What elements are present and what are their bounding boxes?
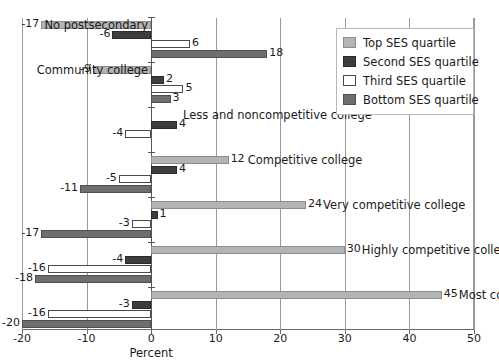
bar-row	[132, 301, 151, 309]
bar-value-label: 18	[267, 49, 283, 57]
diverging-bar-chart: -17-6618No postsecondary-9253Community c…	[0, 0, 499, 364]
bar-row	[132, 220, 151, 228]
legend-swatch-second-ses	[343, 56, 356, 67]
x-tick-label-10: 10	[209, 332, 223, 345]
bar-value-label: -18	[15, 274, 35, 282]
gridline-20	[280, 18, 281, 330]
bar-row	[48, 310, 151, 318]
group-tick-5	[148, 242, 155, 243]
bar-value-label: -4	[112, 129, 125, 137]
bar-value-label: -17	[21, 20, 41, 28]
bar-value-label: -17	[21, 229, 41, 237]
group-tick-0	[148, 17, 155, 18]
group-label-5: Highly competitive college	[359, 245, 499, 255]
bar-row	[48, 265, 151, 273]
group-tick-4	[148, 197, 155, 198]
bar-value-label: -3	[119, 300, 132, 308]
bar-value-label: 3	[171, 94, 180, 102]
bar-row	[119, 175, 151, 183]
bar-row	[151, 291, 442, 299]
legend-item-bottom-ses: Bottom SES quartile	[343, 90, 467, 109]
bar-row	[151, 50, 267, 58]
legend: Top SES quartile Second SES quartile Thi…	[336, 28, 474, 115]
legend-swatch-bottom-ses	[343, 94, 356, 105]
x-axis-title: Percent	[130, 346, 173, 360]
x-tick-label-0: 0	[148, 332, 155, 345]
group-label-1: Community college	[37, 65, 151, 75]
gridline-10	[216, 18, 217, 330]
bar-value-label: -4	[112, 255, 125, 263]
bar-row	[151, 40, 190, 48]
bar-value-label: 12	[229, 155, 245, 163]
legend-swatch-top-ses	[343, 37, 356, 48]
legend-label-bottom-ses: Bottom SES quartile	[363, 93, 479, 107]
gridline-0	[151, 18, 152, 330]
bar-value-label: -11	[60, 184, 80, 192]
bar-row	[151, 76, 164, 84]
bar-value-label: -16	[28, 309, 48, 317]
bar-row	[151, 201, 306, 209]
x-tick-label-40: 40	[402, 332, 416, 345]
bar-value-label: 5	[183, 84, 192, 92]
legend-label-third-ses: Third SES quartile	[363, 74, 466, 88]
bar-value-label: -5	[106, 174, 119, 182]
bar-row	[41, 230, 151, 238]
bar-row	[151, 95, 170, 103]
bar-row	[125, 130, 151, 138]
group-label-3: Competitive college	[245, 155, 363, 165]
bar-row	[151, 166, 177, 174]
group-tick-2	[148, 107, 155, 108]
bar-row	[151, 246, 345, 254]
bar-row	[151, 156, 228, 164]
legend-label-top-ses: Top SES quartile	[363, 36, 456, 50]
group-tick-6	[148, 287, 155, 288]
bar-value-label: -20	[2, 319, 22, 327]
x-tick-label--10: -10	[78, 332, 96, 345]
x-tick-label-50: 50	[467, 332, 481, 345]
bar-value-label: -3	[119, 219, 132, 227]
bar-row	[80, 185, 151, 193]
group-label-4: Very competitive college	[320, 200, 465, 210]
x-tick-label-20: 20	[273, 332, 287, 345]
x-tick-label--20: -20	[13, 332, 31, 345]
bar-row	[35, 275, 151, 283]
bar-value-label: 6	[190, 39, 199, 47]
group-label-0: No postsecondary	[44, 20, 151, 30]
x-axis-line	[22, 329, 474, 330]
bar-row	[22, 320, 151, 328]
legend-label-second-ses: Second SES quartile	[363, 55, 479, 69]
group-label-6: Most competitive college	[456, 290, 499, 300]
x-tick-label-30: 30	[338, 332, 352, 345]
bar-row	[151, 121, 177, 129]
legend-swatch-third-ses	[343, 75, 356, 86]
legend-item-second-ses: Second SES quartile	[343, 52, 467, 71]
legend-item-third-ses: Third SES quartile	[343, 71, 467, 90]
bar-value-label: 4	[177, 165, 186, 173]
bar-value-label: 1	[158, 210, 167, 218]
group-tick-3	[148, 152, 155, 153]
legend-item-top-ses: Top SES quartile	[343, 33, 467, 52]
bar-value-label: 2	[164, 75, 173, 83]
bar-row	[125, 256, 151, 264]
group-tick-1	[148, 62, 155, 63]
